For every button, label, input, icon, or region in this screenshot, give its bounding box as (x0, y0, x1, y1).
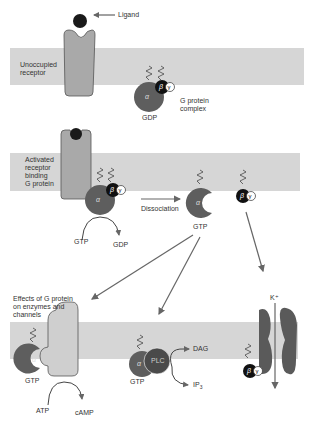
atp-camp-arrow (48, 382, 82, 405)
potassium-ion-label: K⁺ (270, 294, 279, 302)
effect-arrows (92, 212, 263, 314)
activated-receptor-label: Activated receptor binding G protein (25, 156, 54, 188)
alpha-subunit-gtp-icon (186, 170, 212, 218)
dag-label: DAG (193, 345, 208, 353)
activated-receptor-icon (61, 128, 91, 199)
plc-label: PLC (151, 357, 165, 365)
potassium-channel-icon (259, 303, 297, 388)
beta-label-4: β (247, 367, 251, 375)
alpha-label-1: α (145, 93, 149, 101)
gdp-out-label: GDP (113, 241, 128, 249)
ligand-icon (73, 14, 87, 28)
gamma-label-1: γ (168, 83, 171, 91)
gtp-alpha-label: GTP (193, 223, 207, 231)
alpha-label-4: α (32, 356, 36, 364)
beta-label-3: β (240, 192, 244, 200)
gdp-label-1: GDP (142, 114, 157, 122)
gtp-ac-label: GTP (25, 377, 39, 385)
dag-ip3-arrows (171, 349, 190, 385)
g-protein-complex-label: G protein complex (180, 97, 209, 113)
alpha-label-2: α (96, 196, 100, 204)
atp-label: ATP (36, 407, 49, 415)
gtp-plc-label: GTP (130, 378, 144, 386)
gamma-label-2: γ (119, 186, 122, 194)
dissociation-label: Dissociation (141, 205, 179, 213)
ligand-label: Ligand (118, 11, 139, 19)
ip3-text: IP (193, 381, 200, 388)
camp-label: cAMP (75, 409, 94, 417)
ip3-label: IP3 (193, 381, 202, 391)
alpha-label-3: α (196, 199, 200, 207)
alpha-label-5: α (137, 360, 141, 368)
gtp-in-label: GTP (74, 238, 88, 246)
beta-gamma-subunit-icon (236, 170, 256, 203)
gtp-gdp-exchange-arrow (82, 217, 119, 240)
beta-label-2: β (110, 186, 114, 194)
plc-icon (129, 335, 170, 377)
alpha-gtp-ac-icon (13, 328, 40, 374)
effects-label: Effects of G protein on enzymes and chan… (13, 295, 73, 319)
gamma-label-4: γ (256, 367, 259, 375)
unoccupied-receptor-icon (64, 30, 95, 96)
ip3-subscript: 3 (200, 384, 203, 390)
beta-label-1: β (159, 83, 163, 91)
gamma-label-3: γ (249, 192, 252, 200)
unoccupied-receptor-label: Unoccupied receptor (20, 61, 57, 77)
